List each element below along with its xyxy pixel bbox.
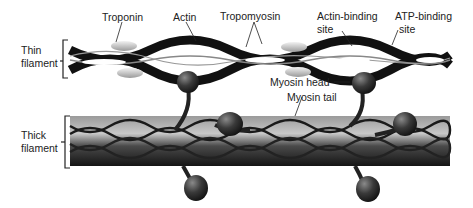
atp-binding-site-line1: ATP-binding bbox=[395, 10, 452, 23]
thick-filament-label-line2: filament bbox=[21, 142, 58, 155]
troponin-label: Troponin bbox=[102, 11, 143, 24]
thin-filament-bracket bbox=[60, 40, 68, 78]
atp-binding-site-line2: site bbox=[395, 23, 452, 36]
actin-binding-site-line1: Actin-binding bbox=[317, 10, 378, 23]
thin-filament-label-line2: filament bbox=[21, 57, 58, 70]
troponin-shape bbox=[111, 41, 137, 51]
atp-binding-site-label: ATP-binding site bbox=[395, 10, 452, 36]
actin-binding-site-line2: site bbox=[317, 23, 378, 36]
thin-filament-label-line1: Thin bbox=[21, 44, 58, 57]
thin-filament-label: Thin filament bbox=[21, 44, 58, 70]
tropomyosin-label: Tropomyosin bbox=[220, 10, 280, 23]
actin-label: Actin bbox=[173, 11, 196, 24]
thick-filament-label: Thick filament bbox=[21, 129, 58, 155]
thin-filament bbox=[70, 40, 450, 81]
thick-filament-label-line1: Thick bbox=[21, 129, 58, 142]
myosin-tail-label: Myosin tail bbox=[287, 91, 337, 104]
actin-binding-site-label: Actin-binding site bbox=[317, 10, 378, 36]
thick-filament-bracket bbox=[61, 116, 70, 168]
thick-filament bbox=[70, 116, 450, 166]
myosin-head-label: Myosin head bbox=[270, 76, 330, 89]
